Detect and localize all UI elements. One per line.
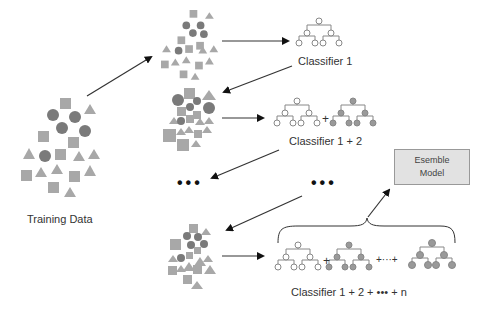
- arrow-training-to-stage1: [87, 57, 151, 96]
- training-data-label: Training Data: [27, 213, 93, 225]
- stage-2-data-cluster: [163, 88, 216, 151]
- plus-sign: +: [323, 254, 330, 268]
- arrow-classifier1-to-stage2: [224, 66, 292, 92]
- arrow-brace-to-ensemble: [368, 190, 389, 217]
- plus-ellipsis: +···+: [376, 254, 398, 265]
- tree-icon-stage2-open: [274, 98, 320, 126]
- ellipsis-right: •••: [311, 174, 337, 192]
- arrow-classifier2-to-ellipsis: [212, 150, 279, 178]
- tree-icon-stagen-filled: [326, 242, 372, 270]
- ellipsis-left: •••: [177, 174, 203, 192]
- ensemble-brace: [278, 218, 455, 243]
- tree-icon-classifier-1: [296, 18, 342, 46]
- classifier-n-label: Classifier 1 + 2 + ••• + n: [291, 286, 407, 298]
- tree-icon-stagen-last: [409, 240, 456, 269]
- plus-sign: +: [322, 112, 329, 126]
- ensemble-model-box: Esemble Model: [394, 149, 470, 185]
- training-data-cluster: [21, 98, 100, 197]
- stage-n-data-cluster: [168, 224, 216, 289]
- ensemble-model-line1: Esemble: [395, 154, 469, 167]
- classifier-2-label: Classifier 1 + 2: [289, 135, 362, 147]
- arrow-ellipsis-to-stagen: [227, 196, 302, 230]
- ensemble-model-line2: Model: [395, 167, 469, 180]
- flow-arrows: [87, 41, 389, 256]
- classifier-1-label: Classifier 1: [298, 55, 352, 67]
- tree-icon-stagen-open: [275, 242, 321, 270]
- stage-1-data-cluster: [161, 10, 218, 80]
- tree-icon-stage2-filled: [330, 98, 376, 126]
